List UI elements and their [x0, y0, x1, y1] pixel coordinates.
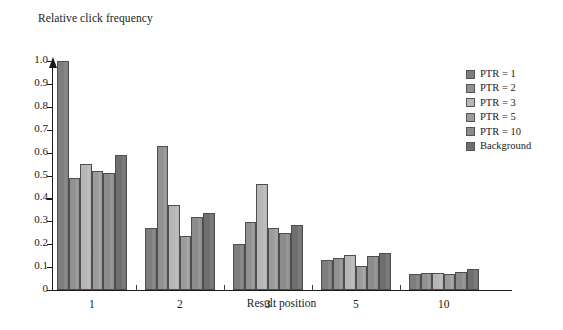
bar	[432, 273, 444, 290]
y-axis-tick-label: 0.3	[34, 213, 48, 225]
legend-label: Background	[480, 141, 531, 152]
y-axis-tick-label: 1.0	[34, 53, 48, 65]
bar	[168, 205, 180, 290]
bar	[467, 269, 479, 290]
bar	[379, 253, 391, 290]
x-axis-title: Result position	[0, 297, 563, 309]
bar	[409, 274, 421, 290]
legend-item: Background	[466, 139, 531, 153]
bar	[157, 146, 169, 290]
y-axis-tick-label: 0.9	[34, 76, 48, 88]
bar	[103, 173, 115, 290]
x-axis-separator-tick	[136, 285, 137, 292]
legend-color-swatch	[466, 70, 475, 79]
bar	[203, 213, 215, 290]
legend-item: PTR = 3	[466, 96, 531, 110]
y-axis-tick-label: 0.2	[34, 236, 48, 248]
bar	[455, 272, 467, 290]
bar	[333, 258, 345, 290]
bar	[233, 244, 245, 290]
bar	[356, 266, 368, 290]
bar	[57, 61, 69, 290]
legend-color-swatch	[466, 113, 475, 122]
bar	[115, 155, 127, 290]
y-axis-tick-label: 0	[43, 282, 49, 294]
legend-color-swatch	[466, 127, 475, 136]
bar	[444, 274, 456, 290]
y-axis-title: Relative click frequency	[38, 12, 153, 24]
bar	[191, 217, 203, 290]
x-axis-separator-tick	[400, 285, 401, 292]
y-axis-arrow-icon	[49, 57, 57, 68]
legend-label: PTR = 3	[480, 98, 516, 109]
legend-item: PTR = 5	[466, 110, 531, 124]
chart-figure: Relative click frequency 00.10.20.30.40.…	[0, 0, 563, 330]
x-axis-separator-tick	[224, 285, 225, 292]
bar	[344, 255, 356, 290]
legend-color-swatch	[466, 142, 475, 151]
bar	[279, 233, 291, 290]
legend-color-swatch	[466, 98, 475, 107]
plot-area: 00.10.20.30.40.50.60.70.80.91.0 123510	[52, 55, 492, 290]
bar	[80, 164, 92, 290]
bar	[256, 184, 268, 290]
legend-label: PTR = 5	[480, 112, 516, 123]
bar	[245, 222, 257, 290]
legend-label: PTR = 10	[480, 127, 521, 138]
bar	[367, 256, 379, 290]
x-axis-separator-tick	[312, 285, 313, 292]
y-axis-tick-label: 0.6	[34, 145, 48, 157]
bar	[291, 225, 303, 290]
y-axis-tick-label: 0.8	[34, 99, 48, 111]
y-axis-tick-label: 0.5	[34, 168, 48, 180]
legend-color-swatch	[466, 84, 475, 93]
legend-label: PTR = 2	[480, 83, 516, 94]
legend-item: PTR = 1	[466, 67, 531, 81]
bar	[321, 260, 333, 290]
y-axis-tick-label: 0.7	[34, 122, 48, 134]
chart-legend: PTR = 1PTR = 2PTR = 3PTR = 5PTR = 10Back…	[466, 67, 531, 153]
y-axis-tick-label: 0.1	[34, 259, 48, 271]
legend-label: PTR = 1	[480, 69, 516, 80]
bar	[268, 228, 280, 290]
legend-item: PTR = 10	[466, 125, 531, 139]
x-axis-line	[52, 290, 512, 291]
bar	[69, 178, 81, 290]
y-axis-line	[52, 61, 53, 290]
legend-item: PTR = 2	[466, 81, 531, 95]
bar	[180, 236, 192, 291]
bar	[145, 228, 157, 290]
y-axis-tick-label: 0.4	[34, 190, 48, 202]
bar	[92, 171, 104, 290]
bar	[421, 273, 433, 290]
